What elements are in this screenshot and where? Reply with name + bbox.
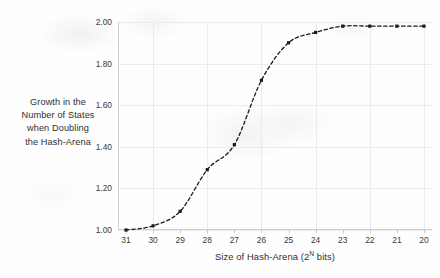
x-axis-tick-label: 20 [419, 235, 428, 245]
x-axis-tick-mark [289, 230, 290, 233]
y-axis-title-line-2: Number of States [6, 109, 110, 122]
plot-area: 1.001.201.401.601.802.00 313029282726252… [118, 22, 432, 230]
x-axis-title: Size of Hash-Arena (2N bits) [118, 250, 432, 262]
x-axis-tick-label: 21 [392, 235, 401, 245]
x-axis-title-suffix: bits) [314, 251, 335, 262]
x-axis-title-prefix: Size of Hash-Arena (2 [215, 251, 309, 262]
y-axis-tick-label: 1.00 [96, 225, 112, 235]
x-axis-tick-label: 31 [121, 235, 130, 245]
data-point-marker [179, 210, 182, 213]
y-axis-tick-label: 1.20 [96, 183, 112, 193]
data-point-marker [287, 41, 290, 44]
x-axis-tick-label: 26 [257, 235, 266, 245]
series-markers [124, 25, 425, 232]
chart-page: Growth in the Number of States when Doub… [0, 0, 440, 278]
x-axis-tick-mark [207, 230, 208, 233]
x-axis-tick-mark [180, 230, 181, 233]
gridline-horizontal [118, 230, 432, 231]
data-point-marker [395, 25, 398, 28]
data-point-marker [260, 79, 263, 82]
x-axis-tick-mark [343, 230, 344, 233]
x-axis-tick-label: 27 [230, 235, 239, 245]
x-axis-tick-mark [316, 230, 317, 233]
data-point-marker [233, 143, 236, 146]
x-axis-tick-mark [234, 230, 235, 233]
data-point-marker [422, 25, 425, 28]
x-axis-tick-label: 28 [203, 235, 212, 245]
data-point-marker [206, 168, 209, 171]
data-point-marker [314, 31, 317, 34]
data-series [118, 22, 432, 230]
data-point-marker [151, 224, 154, 227]
y-axis-title-line-3: when Doubling [6, 122, 110, 135]
x-axis-tick-label: 24 [311, 235, 320, 245]
y-axis-tick-label: 1.60 [96, 100, 112, 110]
x-axis-tick-label: 22 [365, 235, 374, 245]
data-point-marker [341, 25, 344, 28]
x-axis-tick-label: 29 [176, 235, 185, 245]
series-line [126, 26, 424, 230]
y-axis-title-line-4: the Hash-Arena [6, 136, 110, 149]
x-axis-tick-label: 30 [148, 235, 157, 245]
y-axis-title-line-1: Growth in the [6, 96, 110, 109]
x-axis-tick-mark [153, 230, 154, 233]
data-point-marker [368, 25, 371, 28]
x-axis-tick-mark [261, 230, 262, 233]
x-axis-tick-mark [424, 230, 425, 233]
x-axis-tick-mark [397, 230, 398, 233]
y-axis-tick-label: 1.80 [96, 59, 112, 69]
x-axis-tick-label: 23 [338, 235, 347, 245]
y-axis-tick-label: 2.00 [96, 17, 112, 27]
data-point-marker [124, 228, 127, 231]
x-axis-tick-mark [370, 230, 371, 233]
y-axis-title: Growth in the Number of States when Doub… [6, 96, 110, 149]
x-axis-tick-label: 25 [284, 235, 293, 245]
y-axis-tick-label: 1.40 [96, 142, 112, 152]
